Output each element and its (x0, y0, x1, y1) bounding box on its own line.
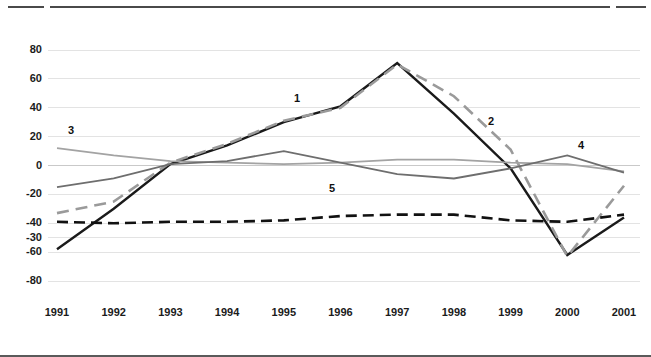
series-label-1: 1 (287, 92, 307, 104)
series-label-2: 2 (481, 115, 501, 127)
x-tick-label: 2000 (539, 306, 595, 318)
x-tick-label: 1996 (313, 306, 369, 318)
gridlines (48, 50, 640, 281)
x-tick-label: 1999 (483, 306, 539, 318)
y-tick-label: -60 (0, 245, 42, 257)
x-tick-label: 1994 (199, 306, 255, 318)
series-line-5 (57, 215, 624, 224)
y-tick-label: 60 (0, 72, 42, 84)
y-tick-label: -30 (0, 231, 42, 243)
y-tick-label: 0 (0, 159, 42, 171)
x-tick-label: 1995 (256, 306, 312, 318)
y-tick-label: 20 (0, 130, 42, 142)
series-label-4: 4 (571, 139, 591, 151)
x-tick-label: 1998 (426, 306, 482, 318)
y-tick-label: -80 (0, 274, 42, 286)
y-tick-label: -40 (0, 216, 42, 228)
line-chart-plot (0, 0, 651, 357)
x-tick-label: 1997 (369, 306, 425, 318)
x-tick-label: 2001 (596, 306, 651, 318)
series-line-3 (57, 148, 624, 171)
x-tick-label: 1991 (29, 306, 85, 318)
y-tick-label: 80 (0, 43, 42, 55)
series-label-5: 5 (322, 182, 342, 194)
series-paths (57, 63, 624, 256)
y-tick-label: 40 (0, 101, 42, 113)
series-label-3: 3 (61, 124, 81, 136)
y-tick-label: -20 (0, 187, 42, 199)
series-line-2 (57, 64, 624, 256)
chart-figure: 806040200-20-40-30-60-80 199119921993199… (0, 0, 651, 357)
x-tick-label: 1993 (142, 306, 198, 318)
x-tick-label: 1992 (86, 306, 142, 318)
